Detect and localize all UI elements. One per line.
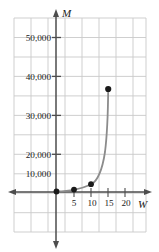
coordinate-graph-figure: 50,000 40,000 30,000 20,000 10,000 5 10 … [0,0,159,252]
x-axis-left-arrow-icon [8,189,16,195]
data-point-3 [105,86,111,92]
data-point-2 [88,181,94,187]
y-axis-name-label: M [61,7,72,19]
x-axis [8,189,152,195]
x-tick-label-10: 10 [87,198,97,208]
x-tick-label-20: 20 [121,198,131,208]
x-tick-label-5: 5 [72,198,77,208]
y-axis-up-arrow-icon [53,9,59,17]
y-tick-label-50000: 50,000 [26,33,52,43]
data-point-1 [71,187,77,193]
y-tick-label-20000: 20,000 [26,150,52,160]
x-axis-right-arrow-icon [144,189,152,195]
data-point-0 [54,189,60,195]
y-tick-label-10000: 10,000 [26,169,52,179]
x-tick-label-15: 15 [104,198,114,208]
y-axis-down-arrow-icon [53,241,59,249]
y-tick-label-40000: 40,000 [26,72,52,82]
y-tick-label-30000: 30,000 [26,111,52,121]
x-axis-name-label: W [138,198,148,210]
x-tick-labels: 5 10 15 20 [72,198,131,208]
chart-canvas: 50,000 40,000 30,000 20,000 10,000 5 10 … [0,0,159,252]
